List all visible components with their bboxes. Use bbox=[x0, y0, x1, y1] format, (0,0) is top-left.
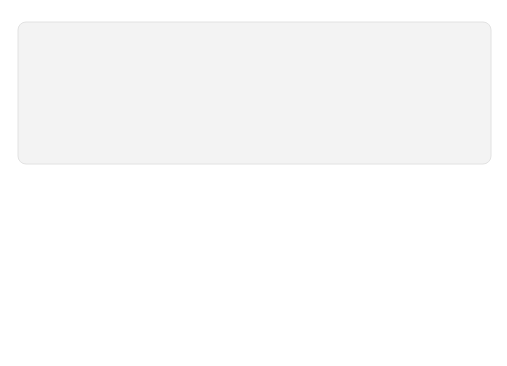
photosynthesis-diagram bbox=[0, 0, 507, 366]
